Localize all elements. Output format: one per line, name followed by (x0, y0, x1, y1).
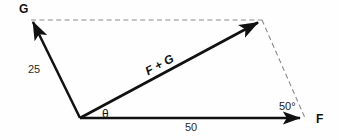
vector-canvas (0, 0, 339, 140)
vector-diagram: G F F + G 25 50 θ 50° (0, 0, 339, 140)
magnitude-g-label: 25 (28, 64, 40, 75)
vector-g-label: G (19, 3, 29, 15)
vector-f-label: F (316, 113, 324, 125)
magnitude-f-label: 50 (185, 122, 197, 133)
angle-theta-label: θ (102, 108, 109, 120)
angle-f-label: 50° (279, 101, 296, 112)
vector-resultant-arrow (80, 23, 258, 119)
